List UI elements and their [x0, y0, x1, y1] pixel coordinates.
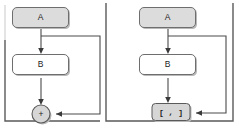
- left-edge-a-to-b: [38, 28, 44, 54]
- left-edge-b-to-merge: [38, 78, 44, 105]
- two-panel-skip-connection-figure: A B +: [0, 0, 239, 132]
- right-edge-a-to-b: [165, 28, 171, 54]
- right-merge-node-concat[interactable]: [ , ]: [152, 104, 192, 123]
- right-panel: A B [ , ]: [140, 8, 227, 123]
- figure-root: A B +: [0, 0, 239, 132]
- left-node-b-label: B: [38, 59, 44, 69]
- left-merge-node-label: +: [39, 109, 44, 119]
- left-node-a-label: A: [38, 12, 44, 22]
- right-node-b-label: B: [165, 59, 171, 69]
- right-node-a-label: A: [165, 12, 171, 22]
- left-node-b[interactable]: B: [13, 55, 71, 77]
- left-node-a[interactable]: A: [13, 8, 71, 30]
- left-panel: A B +: [13, 8, 101, 125]
- right-node-a[interactable]: A: [140, 8, 198, 30]
- right-edge-b-to-merge: [165, 78, 171, 103]
- left-skip-edge: [41, 36, 100, 117]
- right-merge-node-label: [ , ]: [159, 108, 183, 117]
- right-node-b[interactable]: B: [140, 55, 198, 77]
